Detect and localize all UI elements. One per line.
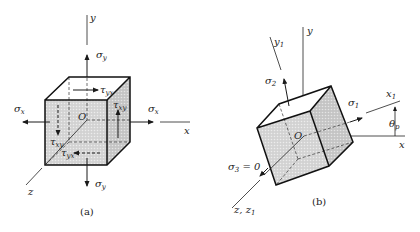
origin-b-label: O xyxy=(294,130,302,141)
sigma-3-label: σ3 = 0 xyxy=(228,161,261,174)
z-axis-label: z xyxy=(27,186,34,197)
z-axis xyxy=(26,168,42,185)
sigma-x-left-label: σx xyxy=(14,103,25,116)
sigma-1-arrow xyxy=(350,118,362,122)
x-axis-label: x xyxy=(184,125,190,136)
x-axis-b-label: x xyxy=(399,139,405,150)
caption-a: (a) xyxy=(80,206,94,217)
sigma-y-top-label: σy xyxy=(96,49,108,62)
caption-b: (b) xyxy=(312,196,326,207)
sigma-y-bottom-label: σy xyxy=(95,178,107,191)
panel-b: y y1 x z, z1 O σ2 σ1 x1 xyxy=(228,25,405,217)
stress-element-figure: y σy z O σx σx x τyx xyxy=(0,0,420,232)
y-axis-label: y xyxy=(89,12,96,23)
sigma-x-right-label: σx xyxy=(148,103,159,116)
origin-label: O xyxy=(78,111,86,122)
panel-a: y σy z O σx σx x τyx xyxy=(14,12,190,217)
x1-axis-label: x1 xyxy=(386,88,396,101)
y1-axis-label: y1 xyxy=(273,36,284,49)
sigma-1-label: σ1 xyxy=(348,97,359,110)
theta-p-label: θp xyxy=(389,118,400,131)
y-axis-b-label: y xyxy=(306,25,313,36)
sigma-2-label: σ2 xyxy=(265,75,277,88)
z-axis-b-label: z, z1 xyxy=(233,204,255,217)
